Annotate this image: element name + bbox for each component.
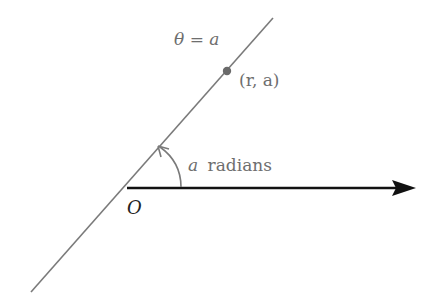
point-label: (r, a): [239, 70, 279, 90]
angle-arc: [160, 147, 181, 187]
angle-unit: radians: [208, 155, 272, 175]
point-r-a: [223, 67, 231, 75]
origin-label: O: [127, 197, 142, 218]
angle-var: a: [188, 155, 198, 175]
polar-diagram: θ = a (r, a) a radians O: [0, 0, 439, 303]
angle-label: a radians: [188, 155, 272, 175]
line-equation-label: θ = a: [174, 29, 219, 49]
